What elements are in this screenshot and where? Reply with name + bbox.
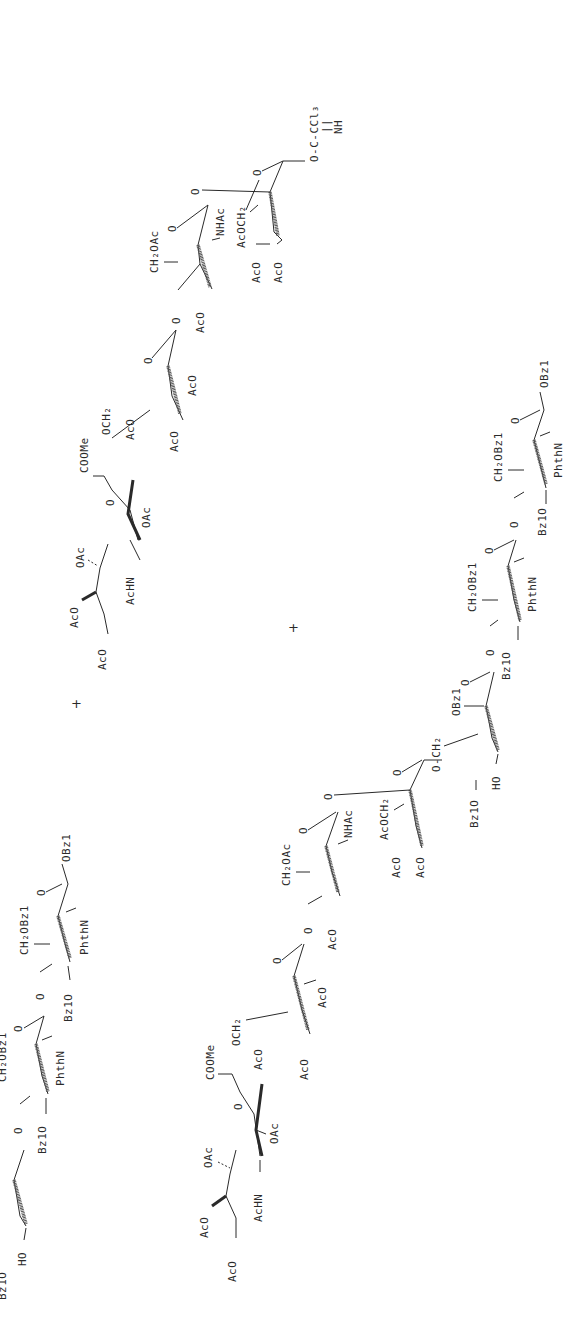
obz1-label: OBz1	[60, 834, 73, 863]
p-glycosidic-o-3: O	[322, 793, 335, 800]
side-aco-label-1: AcO	[68, 607, 81, 628]
p-gal-aco-2: AcO	[252, 1049, 265, 1070]
p-gal-aco-3: AcO	[298, 1059, 311, 1080]
aco-label-2: AcO	[272, 262, 285, 283]
glycosidic-o-2: O	[170, 317, 183, 324]
och2-label: OCH₂	[100, 407, 113, 436]
p-ring-o-1: O	[509, 417, 522, 424]
ho-label: HO	[16, 1252, 29, 1266]
sialic-ring-o: O	[104, 499, 117, 506]
p-sialic-ring-o: O	[232, 1103, 245, 1110]
gal-aco-label-1: AcO	[186, 375, 199, 396]
side-oac-label: OAc	[74, 547, 87, 568]
sialic-oac-label: OAc	[140, 507, 153, 528]
p-branch-bz1o: Bz1O	[468, 800, 481, 829]
p-ho-label: HO	[490, 776, 503, 790]
glcnac-ring-o: O	[166, 225, 179, 232]
product-structure: OBz1 O CH₂OBz1 PhthN Bz1O O O CH₂OBz1 Ph…	[198, 360, 565, 1283]
gal-aco-label-3: AcO	[124, 419, 137, 440]
ch2oac-label: CH₂OAc	[148, 230, 161, 273]
nhac-label: NHAc	[214, 208, 227, 237]
donor-structure: O-C-CCl₃ || NH O AcOCH₂ AcO AcO O O NHAc…	[68, 105, 345, 670]
p-ch2oac-label: CH₂OAc	[280, 843, 293, 886]
p-branch-ring-o: O	[459, 679, 472, 686]
p-gal-ring-o: O	[271, 957, 284, 964]
bz1o-label-3: Bz1O	[0, 1272, 9, 1301]
p-phthn-label-2: PhthN	[526, 576, 539, 612]
p-nhac-label: NHAc	[342, 810, 355, 839]
p-man-aco-2: AcO	[414, 857, 427, 878]
p-phthn-label-1: PhthN	[552, 442, 565, 478]
p-achn-label: AcHN	[252, 1194, 265, 1223]
ch2obz1-label-1: CH₂OBz1	[18, 905, 31, 955]
gal-ring-o: O	[142, 357, 155, 364]
p-man-aco-1: AcO	[390, 857, 403, 878]
side-aco-label-2: AcO	[96, 649, 109, 670]
p-side-aco-2: AcO	[226, 1261, 239, 1282]
acceptor-structure: OBz1 O CH₂OBz1 PhthN Bz1O O O CH₂OBz1 Ph…	[0, 834, 91, 1301]
mannose-ring-o: O	[251, 169, 264, 176]
p-acoch2-label: AcOCH₂	[378, 797, 391, 840]
p-ch2obz1-label-1: CH₂OBz1	[492, 432, 505, 482]
reaction-scheme: O-C-CCl₃ || NH O AcOCH₂ AcO AcO O O NHAc…	[0, 0, 586, 1335]
acoch2-label: AcOCH₂	[235, 205, 248, 248]
phthn-label-1: PhthN	[78, 919, 91, 955]
p-bz1o-label-2: Bz1O	[500, 652, 513, 681]
p-glycosidic-o-1: O	[508, 521, 521, 528]
p-coome-label: COOMe	[204, 1044, 217, 1080]
glycosidic-o-a1: O	[34, 993, 47, 1000]
p-glcnac-aco: AcO	[326, 929, 339, 950]
bz1o-label-2: Bz1O	[36, 1126, 49, 1155]
aco-label-1: AcO	[250, 262, 263, 283]
ring-o-1: O	[35, 889, 48, 896]
p-glycosidic-o-4: O	[302, 927, 315, 934]
plus-operator-1: +	[71, 696, 82, 711]
p-side-oac: OAc	[202, 1147, 215, 1168]
glcnac-aco-label: AcO	[194, 312, 207, 333]
glycosidic-o-a2: O	[12, 1127, 25, 1134]
p-obz1-label: OBz1	[538, 360, 551, 389]
gal-aco-label-2: AcO	[168, 431, 181, 452]
p-gal-aco-1: AcO	[316, 987, 329, 1008]
p-side-aco-1: AcO	[198, 1217, 211, 1238]
p-man-ring-o: O	[391, 769, 404, 776]
p-branch-obz1: OBz1	[450, 688, 463, 717]
p-ch2obz1-label-2: CH₂OBz1	[466, 562, 479, 612]
p-bz1o-label-1: Bz1O	[536, 508, 549, 537]
p-glycosidic-o-2: O	[484, 649, 497, 656]
phthn-label-2: PhthN	[54, 1050, 67, 1086]
ring-o-2: O	[12, 1025, 25, 1032]
p-och2-label: OCH₂	[230, 1018, 243, 1047]
coome-label: COOMe	[78, 437, 91, 473]
p-glcnac-ring-o: O	[297, 827, 310, 834]
bz1o-label-1: Bz1O	[62, 994, 75, 1023]
p-sialic-oac: OAc	[268, 1123, 281, 1144]
plus-operator-2: +	[288, 620, 299, 635]
p-ring-o-2: O	[483, 547, 496, 554]
achn-label: AcHN	[124, 577, 137, 606]
glycosidic-o-1: O	[189, 188, 202, 195]
p-o-ch2-label: O-CH₂	[430, 736, 443, 772]
ch2obz1-label-2: CH₂OBz1	[0, 1032, 9, 1082]
imidate-nh-label: NH	[332, 120, 345, 134]
